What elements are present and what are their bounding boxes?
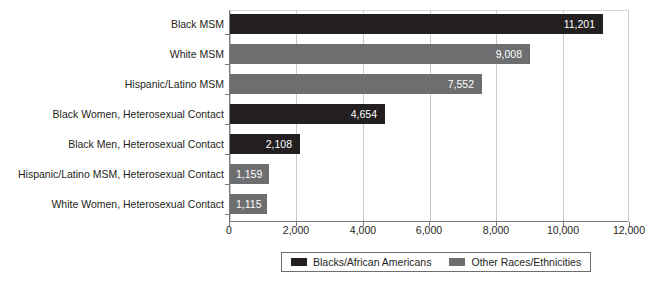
legend-label: Other Races/Ethnicities <box>471 256 581 268</box>
category-tick <box>225 184 229 185</box>
bar-white-msm: 9,008 <box>230 44 530 64</box>
bar-value-label: 4,654 <box>351 108 377 120</box>
bar-black-men-heterosexual: 2,108 <box>230 134 300 154</box>
bar-row: Black Women, Heterosexual Contact 4,654 <box>0 104 669 124</box>
bar-row: Hispanic/Latino MSM, Heterosexual Contac… <box>0 164 669 184</box>
chart-legend: Blacks/African Americans Other Races/Eth… <box>281 252 591 272</box>
bar-white-women-heterosexual: 1,115 <box>230 194 267 214</box>
legend-swatch-icon <box>449 258 465 266</box>
category-tick <box>225 34 229 35</box>
bar-value-label: 7,552 <box>448 78 474 90</box>
bar-row: Black Men, Heterosexual Contact 2,108 <box>0 134 669 154</box>
category-label: White Women, Heterosexual Contact <box>51 198 224 210</box>
bar-value-label: 9,008 <box>496 48 522 60</box>
category-label: Black Women, Heterosexual Contact <box>53 108 224 120</box>
category-label: Black Men, Heterosexual Contact <box>68 138 224 150</box>
bar-value-label: 1,115 <box>236 198 262 210</box>
bar-chart: Black MSM 11,201 White MSM 9,008 Hispani… <box>0 0 669 290</box>
bar-value-label: 1,159 <box>236 168 262 180</box>
legend-item-other-races-ethnicities: Other Races/Ethnicities <box>449 256 581 268</box>
bar-value-label: 11,201 <box>564 18 595 30</box>
bar-black-women-heterosexual: 4,654 <box>230 104 385 124</box>
category-label: Hispanic/Latino MSM <box>125 78 224 90</box>
bar-hispanic-latino-msm: 7,552 <box>230 74 482 94</box>
category-tick <box>225 94 229 95</box>
bar-rows: Black MSM 11,201 White MSM 9,008 Hispani… <box>0 10 669 222</box>
xaxis-tick-label: 4,000 <box>350 224 376 236</box>
xaxis-tick-label: 10,000 <box>547 224 579 236</box>
xaxis-tick-label: 6,000 <box>416 224 442 236</box>
xaxis-tick-label: 2,000 <box>283 224 309 236</box>
bar-black-msm: 11,201 <box>230 14 603 34</box>
category-label: Black MSM <box>171 18 224 30</box>
legend-swatch-icon <box>291 258 307 266</box>
bar-row: White Women, Heterosexual Contact 1,115 <box>0 194 669 214</box>
category-label: Hispanic/Latino MSM, Heterosexual Contac… <box>18 168 224 180</box>
category-tick <box>225 214 229 215</box>
xaxis-tick-label: 12,000 <box>613 224 645 236</box>
legend-label: Blacks/African Americans <box>313 256 431 268</box>
category-tick <box>225 154 229 155</box>
category-tick <box>225 124 229 125</box>
bar-hispanic-latino-msm-heterosexual: 1,159 <box>230 164 269 184</box>
bar-value-label: 2,108 <box>266 138 292 150</box>
legend-item-blacks-african-americans: Blacks/African Americans <box>291 256 431 268</box>
category-label: White MSM <box>170 48 224 60</box>
category-tick <box>225 64 229 65</box>
xaxis-labels: 0 2,000 4,000 6,000 8,000 10,000 12,000 <box>0 224 669 240</box>
bar-row: Hispanic/Latino MSM 7,552 <box>0 74 669 94</box>
xaxis-tick-label: 8,000 <box>483 224 509 236</box>
bar-row: Black MSM 11,201 <box>0 14 669 34</box>
xaxis-tick-label: 0 <box>226 224 232 236</box>
bar-row: White MSM 9,008 <box>0 44 669 64</box>
